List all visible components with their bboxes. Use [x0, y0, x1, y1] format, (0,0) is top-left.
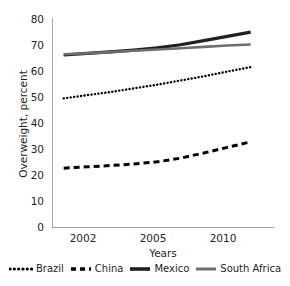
- legend-swatch-brazil-icon: [9, 265, 33, 273]
- series-line-china: [64, 142, 251, 168]
- y-tick-label-10: 10: [18, 196, 44, 206]
- legend-label-brazil: Brazil: [36, 263, 64, 274]
- plot-area: [52, 18, 274, 228]
- x-tick-label-2002: 2002: [61, 232, 105, 244]
- series-line-mexico: [64, 32, 251, 55]
- legend-item-china[interactable]: China: [70, 263, 124, 274]
- legend-item-brazil[interactable]: Brazil: [9, 263, 64, 274]
- chart-plot-svg: [52, 18, 274, 228]
- series-line-south-africa: [64, 45, 251, 55]
- legend-item-south-africa[interactable]: South Africa: [195, 263, 281, 274]
- x-tick-label-2005: 2005: [131, 232, 175, 244]
- legend-swatch-south-africa-icon: [195, 265, 217, 273]
- x-tick-label-2010: 2010: [201, 232, 245, 244]
- legend-label-china: China: [95, 263, 124, 274]
- y-tick-label-40: 40: [18, 118, 44, 128]
- y-tick-label-50: 50: [18, 92, 44, 102]
- chart-figure: Overweight, percent 80 70 60 50 40 30 20…: [0, 0, 290, 286]
- y-tick-label-30: 30: [18, 144, 44, 154]
- y-tick-label-60: 60: [18, 66, 44, 76]
- y-tick-label-0: 0: [18, 222, 44, 232]
- legend-label-mexico: Mexico: [154, 263, 189, 274]
- legend-swatch-mexico-icon: [129, 265, 151, 273]
- legend-item-mexico[interactable]: Mexico: [129, 263, 189, 274]
- y-tick-label-20: 20: [18, 170, 44, 180]
- legend-swatch-china-icon: [70, 265, 92, 273]
- legend-label-south-africa: South Africa: [220, 263, 281, 274]
- series-line-brazil: [64, 67, 251, 98]
- y-tick-label-80: 80: [18, 14, 44, 24]
- chart-legend: BrazilChinaMexicoSouth Africa: [0, 263, 290, 274]
- x-axis-title: Years: [52, 247, 274, 259]
- y-tick-label-70: 70: [18, 40, 44, 50]
